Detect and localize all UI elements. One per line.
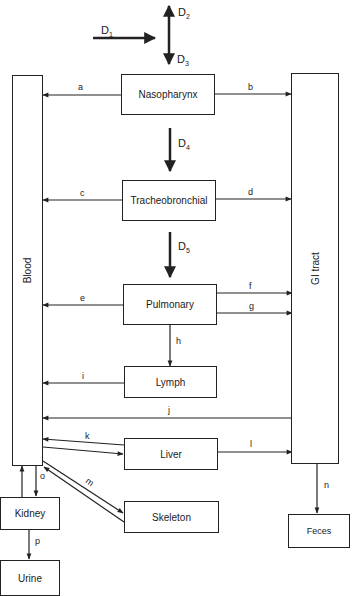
skeleton-box: Skeleton — [124, 501, 219, 533]
d2-label: D2 — [178, 6, 190, 20]
pathway-o-label: o — [40, 471, 45, 481]
d1-label: D1 — [101, 24, 113, 38]
pathway-i-label: i — [82, 371, 84, 381]
tracheobronchial-box: Tracheobronchial — [122, 180, 216, 221]
pulmonary-box: Pulmonary — [123, 284, 217, 325]
nasopharynx-box: Nasopharynx — [121, 74, 215, 115]
pathway-k-out — [43, 447, 123, 454]
pathway-k-in — [43, 439, 124, 445]
pathway-c-label: c — [80, 188, 85, 198]
pathway-e-label: e — [80, 293, 85, 303]
skeleton-label: Skeleton — [152, 512, 191, 523]
pathway-g-label: g — [249, 301, 254, 311]
pathway-d-label: d — [248, 187, 253, 197]
gi-tract-label: GI tract — [309, 252, 320, 285]
pathway-f-label: f — [249, 281, 252, 291]
blood-label: Blood — [22, 258, 33, 284]
kidney-box: Kidney — [0, 497, 60, 530]
kidney-label: Kidney — [15, 508, 46, 519]
pathway-b-label: b — [248, 82, 253, 92]
urine-label: Urine — [18, 573, 42, 584]
pathway-k-label: k — [85, 431, 90, 441]
tracheobronchial-label: Tracheobronchial — [131, 195, 208, 206]
nasopharynx-label: Nasopharynx — [139, 89, 198, 100]
pathway-n-label: n — [324, 480, 329, 490]
liver-label: Liver — [160, 449, 182, 460]
gi-tract-box: GI tract — [291, 73, 339, 464]
lymph-label: Lymph — [156, 377, 186, 388]
feces-box: Feces — [288, 514, 350, 548]
liver-box: Liver — [124, 438, 218, 470]
blood-box: Blood — [12, 75, 43, 466]
pathway-l-label: l — [250, 439, 252, 449]
d3-label: D3 — [177, 53, 189, 67]
urine-box: Urine — [0, 560, 60, 596]
pathway-p-label: p — [35, 536, 40, 546]
d4-label: D4 — [178, 137, 190, 151]
lymph-box: Lymph — [124, 366, 217, 398]
pathway-j-label: j — [168, 405, 170, 415]
pathway-a-label: a — [78, 82, 83, 92]
pathway-h-label: h — [176, 336, 181, 346]
pulmonary-label: Pulmonary — [146, 299, 194, 310]
feces-label: Feces — [307, 526, 332, 536]
d5-label: D5 — [178, 240, 190, 254]
